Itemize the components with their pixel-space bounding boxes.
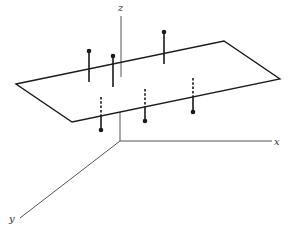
regression-plane-diagram: x y z	[0, 0, 292, 235]
observation-dot	[87, 49, 92, 54]
observation-dot	[111, 54, 116, 59]
observation-dot	[143, 119, 148, 124]
y-axis-line	[20, 141, 120, 218]
point-above-plane	[87, 49, 92, 82]
data-points	[87, 30, 196, 133]
point-above-plane	[162, 30, 167, 64]
point-below-plane	[99, 97, 104, 132]
point-above-plane	[111, 54, 116, 87]
observation-dot	[162, 30, 167, 35]
regression-plane	[16, 41, 280, 122]
observation-dot	[99, 128, 104, 133]
axes	[20, 16, 272, 218]
axis-labels: x y z	[8, 2, 280, 224]
y-axis-label: y	[8, 213, 15, 224]
z-axis-label: z	[117, 2, 124, 13]
observation-dot	[191, 110, 196, 115]
x-axis-label: x	[274, 136, 280, 147]
plane-outline	[16, 41, 280, 122]
